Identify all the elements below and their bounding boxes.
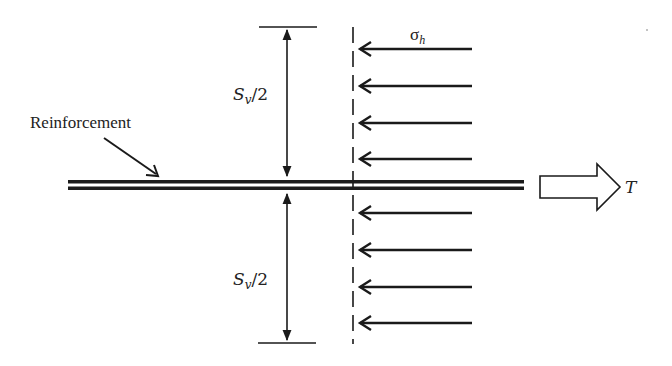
stress-arrow: [360, 152, 472, 166]
spacing-label-upper: Sv/2: [233, 84, 268, 107]
stress-arrows-lower: [360, 206, 472, 330]
stress-arrow: [360, 79, 472, 93]
spacing-label-lower: Sv/2: [233, 269, 268, 292]
stress-arrow: [360, 316, 472, 330]
stress-arrow: [360, 206, 472, 220]
stress-arrow: [360, 42, 472, 56]
reinforcement-pointer-arrow: [104, 138, 158, 176]
speck: [646, 29, 648, 31]
diagram-canvas: Reinforcement Sv/2 Sv/2: [0, 0, 672, 366]
diagram-svg: Reinforcement Sv/2 Sv/2: [0, 0, 672, 366]
stress-label: σh: [410, 25, 425, 47]
stress-arrow: [360, 243, 472, 257]
stress-arrow: [360, 116, 472, 130]
tension-arrow-icon: [540, 164, 620, 210]
tension-label: T: [625, 177, 638, 197]
reinforcement-strip: [68, 180, 524, 190]
stress-arrow: [360, 280, 472, 294]
reinforcement-label: Reinforcement: [30, 113, 131, 132]
stress-arrows-upper: [360, 42, 472, 166]
